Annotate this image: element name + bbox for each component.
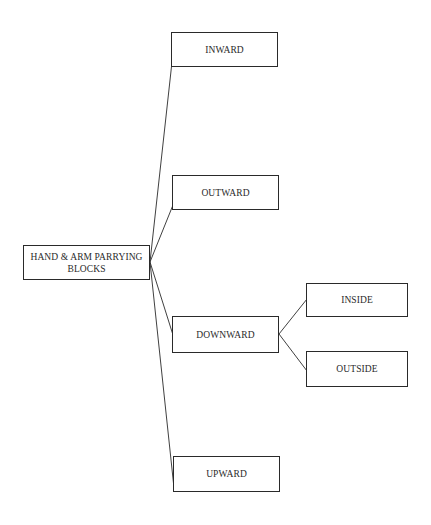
root-label-line2: BLOCKS <box>30 263 142 275</box>
node-inward: INWARD <box>171 32 278 67</box>
node-outward-label: OUTWARD <box>201 187 249 199</box>
node-outside-label: OUTSIDE <box>336 363 377 375</box>
node-downward: DOWNWARD <box>172 316 279 353</box>
root-label-line1: HAND & ARM PARRYING <box>30 251 142 263</box>
node-inward-label: INWARD <box>205 44 244 56</box>
node-upward: UPWARD <box>173 456 280 492</box>
diagram-canvas: HAND & ARM PARRYING BLOCKS INWARD OUTWAR… <box>0 0 431 525</box>
node-outward: OUTWARD <box>172 175 279 210</box>
edge-root-inward <box>150 62 172 262</box>
node-downward-label: DOWNWARD <box>196 329 254 341</box>
edge-root-upward <box>150 262 174 488</box>
edge-downward-outside <box>279 334 307 371</box>
root-node-hand-arm-parrying-blocks: HAND & ARM PARRYING BLOCKS <box>23 245 150 280</box>
node-inside: INSIDE <box>306 283 408 317</box>
node-upward-label: UPWARD <box>206 468 247 480</box>
node-outside: OUTSIDE <box>306 351 408 387</box>
edge-downward-inside <box>279 299 307 334</box>
node-inside-label: INSIDE <box>341 294 373 306</box>
